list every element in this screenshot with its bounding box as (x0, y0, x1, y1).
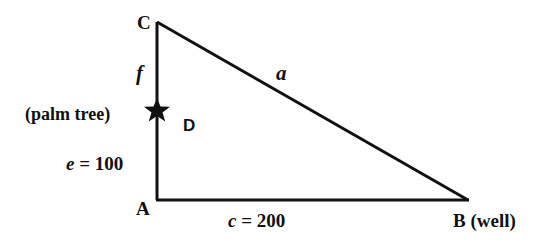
right-triangle-diagram: C f a (palm tree) D e = 100 A c = 200 B … (0, 0, 559, 246)
vertex-label-a: A (136, 198, 150, 219)
vertex-label-b-well: B (well) (453, 210, 516, 232)
side-label-c: c = 200 (228, 210, 285, 231)
point-label-d: D (183, 116, 195, 135)
vertex-label-c: C (137, 12, 151, 33)
side-label-e: e = 100 (66, 153, 123, 174)
palm-tree-label: (palm tree) (25, 104, 110, 125)
side-label-f: f (136, 61, 145, 85)
side-cb-hypotenuse (157, 22, 468, 200)
side-label-a: a (276, 61, 287, 85)
triangle (156, 22, 469, 200)
